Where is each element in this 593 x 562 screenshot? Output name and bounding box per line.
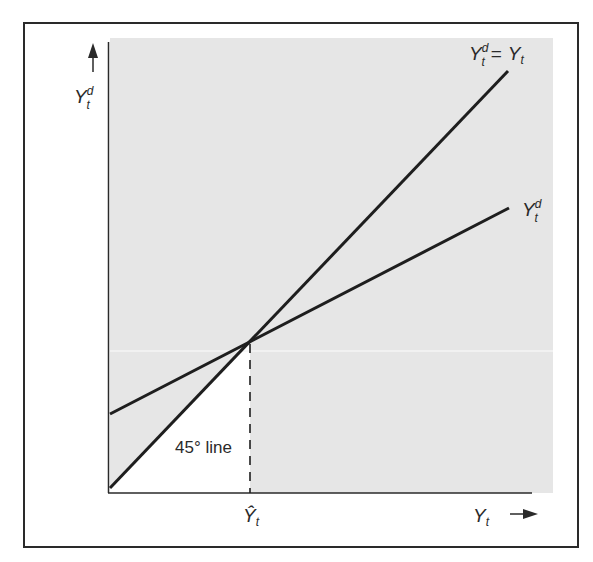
- y-axis-arrow-icon: [88, 43, 98, 72]
- y-axis-label: Ydt: [74, 84, 94, 112]
- x-axis-label: Yt: [473, 505, 490, 529]
- keynesian-cross-diagram: Ydt Ydt=Yt Ydt 45° line Ŷt Yt: [0, 0, 593, 562]
- x-axis-arrow-icon: [510, 509, 538, 519]
- line-45-label: 45° line: [175, 438, 232, 457]
- equilibrium-output-label: Ŷt: [243, 505, 260, 529]
